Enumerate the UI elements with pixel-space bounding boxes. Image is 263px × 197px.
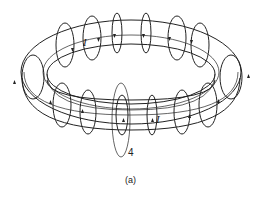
loop-back-6 bbox=[191, 23, 209, 67]
loop-front-1 bbox=[53, 83, 71, 127]
arrow-up-icon bbox=[151, 118, 154, 122]
arrow-up-icon bbox=[13, 80, 16, 84]
current-label-bottom: I bbox=[156, 113, 160, 125]
arrow-down-icon bbox=[190, 40, 193, 44]
torus-inner-hole-edge bbox=[47, 44, 215, 104]
figure-caption: (a) bbox=[125, 175, 136, 185]
loop-right bbox=[220, 55, 242, 99]
arrow-up-icon bbox=[122, 118, 125, 122]
linking-loop-4 bbox=[112, 83, 130, 157]
torus-inner-ring-1 bbox=[43, 35, 219, 109]
arrow-down-icon bbox=[97, 38, 100, 42]
loop-back-4 bbox=[141, 13, 151, 53]
arrow-up-icon bbox=[217, 99, 220, 103]
toroid-figure: I I 4 (a) bbox=[0, 0, 263, 197]
arrow-up-icon bbox=[49, 100, 52, 104]
loop-back-3 bbox=[112, 13, 122, 53]
arrow-down-icon bbox=[142, 34, 145, 38]
loop-left bbox=[22, 55, 44, 99]
loop-number-label: 4 bbox=[128, 147, 134, 158]
torus-inner-hole-bottom bbox=[47, 80, 215, 100]
loop-back-5 bbox=[168, 16, 186, 60]
current-label-top: I bbox=[83, 36, 87, 48]
arrow-up-icon bbox=[247, 74, 250, 78]
arrow-up-icon bbox=[81, 109, 84, 113]
toroid-diagram bbox=[0, 0, 263, 197]
